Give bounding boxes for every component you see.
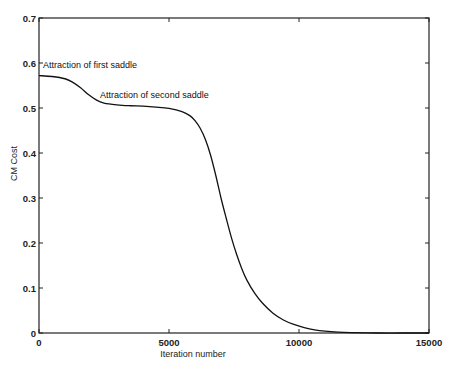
y-axis-label: CM Cost [9, 146, 19, 182]
x-tick-label: 10000 [286, 337, 312, 348]
y-tick-label: 0.5 [23, 103, 37, 114]
y-tick-label: 0.6 [23, 58, 36, 69]
line-chart: 00.10.20.30.40.50.60.7 050001000015000 A… [0, 0, 452, 366]
x-tick-label: 0 [36, 337, 41, 348]
x-tick-label: 15000 [416, 337, 442, 348]
y-tick-label: 0.3 [23, 193, 36, 204]
y-tick-label: 0 [31, 328, 36, 339]
annotation-first-saddle: Attraction of first saddle [43, 60, 137, 70]
y-tick-label: 0.2 [23, 238, 36, 249]
y-tick-label: 0.1 [23, 283, 37, 294]
cm-cost-curve [39, 76, 429, 333]
x-axis-label: Iteration number [160, 349, 226, 359]
x-tick-label: 5000 [158, 337, 179, 348]
y-tick-label: 0.7 [23, 13, 36, 24]
y-tick-label: 0.4 [23, 148, 37, 159]
annotation-second-saddle: Attraction of second saddle [100, 90, 209, 100]
